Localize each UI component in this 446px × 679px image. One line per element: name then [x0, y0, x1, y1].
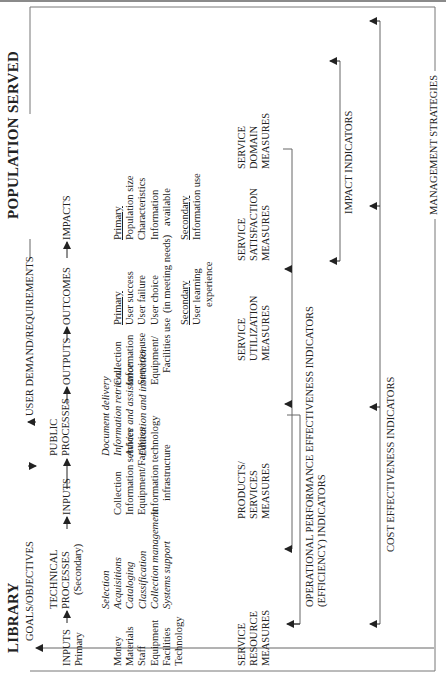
effectiveness-indicators: EFFECTIVENESS INDICATORS: [304, 306, 316, 452]
cost-effectiveness-indicators: COST EFFECTIVENESS INDICATORS: [385, 377, 397, 552]
technical-processes-list: Selection Acquisitions Cataloging Classi…: [100, 509, 173, 609]
products-services-measures: PRODUCTS/ SERVICES MEASURES: [236, 461, 273, 519]
outputs-list: Collection Information Services use Equi…: [112, 318, 173, 385]
goals-objectives-label: GOALS/OBJECTIVES: [24, 541, 36, 641]
impacts-list: Primary Population size Characteristics …: [112, 173, 203, 240]
management-strategies: MANAGEMENT STRATEGIES: [428, 71, 440, 219]
library-header: LIBRARY: [5, 582, 22, 653]
primary-inputs-list: Money Materials Staff Equipment Faciliti…: [112, 617, 185, 666]
impact-indicators: IMPACT INDICATORS: [343, 111, 355, 214]
service-resource-measures: SERVICE RESOURCE MEASURES: [236, 610, 273, 666]
technical-processes-heading: TECHNICAL PROCESSES (Secondary): [48, 544, 85, 609]
service-utilization-measures: SERVICE UTILIZATION MEASURES: [236, 296, 273, 361]
service-domain-measures: SERVICE DOMAIN MEASURES: [236, 113, 273, 169]
population-served-header: POPULATION SERVED: [5, 51, 22, 219]
library-evaluation-diagram: LIBRARY POPULATION SERVED GOALS/OBJECTIV…: [0, 0, 446, 679]
public-processes-heading: PUBLIC PROCESSES: [48, 398, 72, 456]
outputs-heading: OUTPUTS: [61, 338, 73, 385]
outcomes-heading: OUTCOMES: [61, 267, 73, 325]
operational-performance-indicators: OPERATIONAL PERFORMANCE (EFFICIENCY) IND…: [304, 455, 328, 607]
impacts-heading: IMPACTS: [61, 195, 73, 240]
service-satisfaction-measures: SERVICE SATISFACTION MEASURES: [236, 188, 273, 261]
outcomes-list: Primary User success User failure User c…: [112, 235, 216, 325]
inputs-primary-heading: INPUTS Primary: [61, 629, 85, 666]
inputs-heading: INPUTS: [61, 478, 73, 515]
user-demand-label: USER DEMAND/REQUIREMENTS: [24, 256, 36, 416]
